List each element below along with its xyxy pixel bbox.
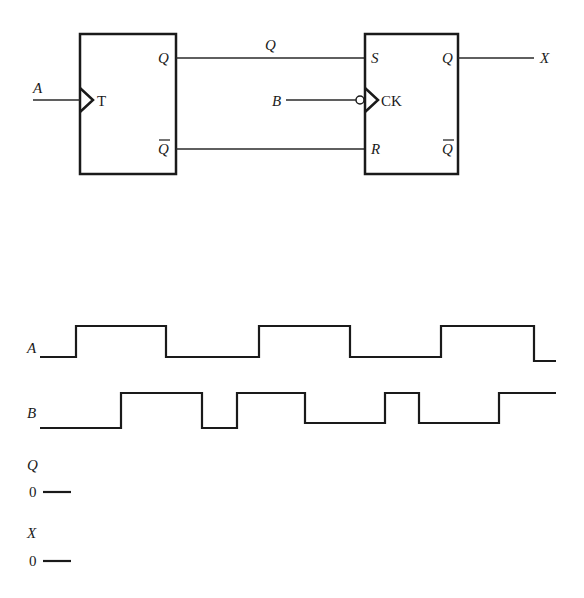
clock-triangle-icon — [80, 88, 93, 112]
inversion-bubble-icon — [356, 96, 364, 104]
clock-triangle-icon — [365, 88, 378, 112]
input-b-label: B — [272, 93, 281, 109]
timing-diagram: A B Q 0 X 0 — [26, 326, 556, 569]
sr-flipflop: CK S R Q Q — [356, 34, 458, 174]
sr-q-label: Q — [442, 50, 453, 66]
sr-qbar-label: Q — [442, 141, 453, 157]
t-qbar-label: Q — [158, 141, 169, 157]
signal-q-initial: 0 — [29, 484, 37, 500]
circuit-and-timing-diagram: T Q Q A Q CK S R Q Q B X A B Q 0 — [0, 0, 584, 598]
sr-r-label: R — [370, 141, 380, 157]
t-clock-label: T — [97, 93, 106, 109]
signal-a-waveform — [40, 326, 556, 361]
input-a-label: A — [32, 80, 43, 96]
wire-q-label: Q — [265, 37, 276, 53]
signal-q-label: Q — [27, 457, 38, 473]
signal-b-label: B — [27, 405, 36, 421]
t-flipflop: T Q Q — [80, 34, 176, 174]
signal-b-waveform — [40, 393, 556, 428]
sr-clock-label: CK — [381, 93, 402, 109]
sr-s-label: S — [371, 50, 379, 66]
signal-a-label: A — [26, 340, 37, 356]
signal-x-label: X — [26, 525, 37, 541]
t-q-label: Q — [158, 50, 169, 66]
output-x-label: X — [539, 50, 550, 66]
signal-x-initial: 0 — [29, 553, 37, 569]
